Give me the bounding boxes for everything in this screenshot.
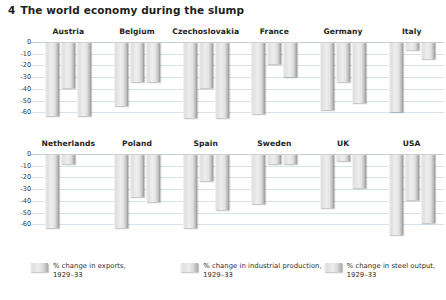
bar-exports (183, 154, 197, 228)
bar-steel-output (146, 154, 160, 202)
country-panel-belgium: Belgium (103, 28, 172, 136)
chart-row-top: 0-10-20-30-40-50-60 AustriaBelgiumCzecho… (0, 28, 446, 136)
y-axis-bottom: 0-10-20-30-40-50-60 (0, 140, 34, 248)
country-panels-top: AustriaBelgiumCzechoslovakiaFranceGerman… (34, 28, 446, 136)
bar-steel-output (215, 42, 229, 118)
bar-group (309, 154, 378, 208)
bar-group (240, 42, 309, 114)
steel-output-swatch-icon (324, 263, 342, 272)
bar-industrial-production (336, 42, 350, 82)
plot-area (103, 154, 172, 236)
bar-steel-output (283, 42, 297, 77)
panel-title-czechoslovakia: Czechoslovakia (171, 27, 240, 36)
legend-item-exports: % change in exports, 1929–33 (30, 262, 180, 280)
page-title: 4 The world economy during the slump (8, 4, 244, 16)
bar-industrial-production (405, 42, 419, 50)
chart-legend: % change in exports, 1929–33 % change in… (30, 262, 440, 280)
panel-title-spain: Spain (171, 139, 240, 148)
bar-industrial-production (130, 154, 144, 197)
y-axis-tick-bottom: -20 (21, 173, 31, 181)
panel-title-uk: UK (309, 139, 378, 148)
plot-area (34, 42, 103, 124)
legend-item-steel-output: % change in steel output, 1929–33 (324, 262, 440, 280)
bar-exports (114, 42, 128, 106)
panel-title-france: France (240, 27, 309, 36)
bar-exports (389, 42, 403, 112)
country-panel-spain: Spain (171, 140, 240, 248)
y-axis-top: 0-10-20-30-40-50-60 (0, 28, 34, 136)
bar-group (103, 42, 172, 106)
country-panels-bottom: NetherlandsPolandSpainSwedenUKUSA (34, 140, 446, 248)
y-axis-tick-top: -30 (21, 73, 31, 81)
panel-title-netherlands: Netherlands (34, 139, 103, 148)
plot-area (240, 154, 309, 236)
plot-area (377, 154, 446, 236)
legend-label-industrial-production: % change in industrial production, 1929–… (203, 262, 321, 280)
country-panel-sweden: Sweden (240, 140, 309, 248)
bar-industrial-production (61, 42, 75, 88)
legend-label-steel-output: % change in steel output, 1929–33 (347, 262, 436, 280)
legend-label-exports-line1: % change in exports, (53, 262, 126, 270)
figure-number: 4 (8, 4, 15, 16)
bar-exports (320, 154, 334, 208)
country-panel-france: France (240, 28, 309, 136)
y-axis-tick-top: -10 (21, 50, 31, 58)
bar-exports (320, 42, 334, 110)
panel-title-germany: Germany (309, 27, 378, 36)
legend-item-industrial-production: % change in industrial production, 1929–… (180, 262, 323, 280)
bar-steel-output (421, 154, 435, 223)
bar-group (34, 154, 103, 228)
exports-swatch-icon (30, 263, 48, 272)
bar-industrial-production (61, 154, 75, 164)
bar-steel-output (283, 154, 297, 164)
y-axis-tick-top: 0 (27, 38, 31, 46)
bar-group (377, 154, 446, 235)
country-panel-uk: UK (309, 140, 378, 248)
bar-steel-output (146, 42, 160, 82)
bar-group (171, 42, 240, 118)
bar-industrial-production (199, 154, 213, 181)
y-axis-tick-top: -60 (21, 108, 31, 116)
figure-title-text: The world economy during the slump (20, 4, 244, 16)
bar-exports (114, 154, 128, 228)
plot-area (309, 154, 378, 236)
panel-title-italy: Italy (377, 27, 446, 36)
bar-steel-output (77, 42, 91, 116)
bar-steel-output (352, 42, 366, 103)
bar-industrial-production (336, 154, 350, 161)
bar-steel-output (421, 42, 435, 59)
y-axis-tick-top: -50 (21, 97, 31, 105)
panel-title-usa: USA (377, 139, 446, 148)
plot-area (34, 154, 103, 236)
country-panel-austria: Austria (34, 28, 103, 136)
panel-title-sweden: Sweden (240, 139, 309, 148)
panel-title-austria: Austria (34, 27, 103, 36)
country-panel-czechoslovakia: Czechoslovakia (171, 28, 240, 136)
bar-industrial-production (405, 154, 419, 200)
bar-industrial-production (267, 42, 281, 64)
plot-area (377, 42, 446, 124)
legend-label-industrial-line2: 1929–33 (203, 271, 233, 279)
bar-group (171, 154, 240, 228)
bar-group (103, 154, 172, 228)
plot-area (103, 42, 172, 124)
y-axis-tick-top: -40 (21, 85, 31, 93)
country-panel-poland: Poland (103, 140, 172, 248)
bar-exports (45, 154, 59, 228)
bar-exports (45, 42, 59, 116)
industrial-production-swatch-icon (180, 263, 198, 272)
chart-row-bottom: 0-10-20-30-40-50-60 NetherlandsPolandSpa… (0, 140, 446, 248)
bar-group (377, 42, 446, 112)
y-axis-tick-bottom: -60 (21, 220, 31, 228)
bar-group (309, 42, 378, 110)
country-panel-netherlands: Netherlands (34, 140, 103, 248)
bar-industrial-production (267, 154, 281, 164)
plot-area (309, 42, 378, 124)
bar-steel-output (215, 154, 229, 210)
y-axis-tick-bottom: -40 (21, 197, 31, 205)
legend-label-exports-line2: 1929–33 (53, 271, 83, 279)
bar-exports (183, 42, 197, 118)
bar-exports (251, 42, 265, 114)
bar-industrial-production (130, 42, 144, 82)
y-axis-tick-top: -20 (21, 61, 31, 69)
